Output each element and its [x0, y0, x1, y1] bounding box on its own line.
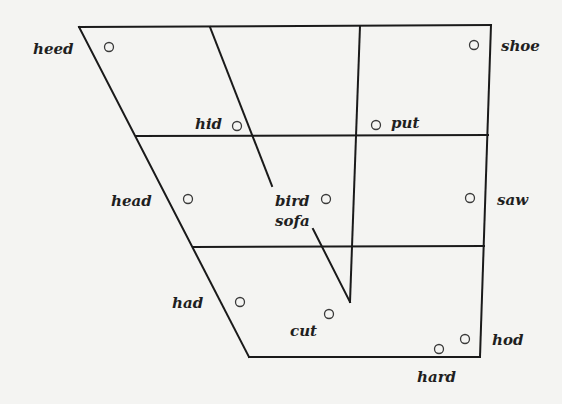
vowel-point-cut	[325, 310, 334, 319]
open-mid-line	[193, 246, 484, 247]
vowel-label-had: had	[172, 294, 204, 312]
vowel-label-hod: hod	[492, 331, 524, 349]
vowel-point-hod	[461, 335, 470, 344]
vowel-point-saw	[466, 194, 475, 203]
vowel-point-put	[372, 121, 381, 130]
vowel-label-put: put	[391, 114, 419, 132]
vowel-label-bird: bird	[275, 192, 310, 210]
vowel-label-hard: hard	[417, 368, 457, 386]
vowel-point-hard	[435, 345, 444, 354]
vowel-point-hid	[233, 122, 242, 131]
vowel-point-head	[184, 195, 193, 204]
close-mid-line	[136, 135, 488, 136]
vowel-label-cut: cut	[290, 322, 317, 340]
vowel-point-shoe	[470, 41, 479, 50]
schwa-pointer-line	[313, 229, 350, 302]
chart-grid	[79, 25, 491, 357]
vowel-label-heed: heed	[33, 40, 74, 58]
vowel-label-head: head	[111, 192, 152, 210]
vowel-chart: heed hid head had bird sofa cut put shoe…	[0, 0, 562, 404]
top-edge	[79, 25, 491, 27]
vowel-label-sofa: sofa	[275, 212, 310, 230]
vowel-point-bird	[322, 195, 331, 204]
vowel-point-had	[236, 298, 245, 307]
front-edge	[79, 27, 249, 357]
vowel-label-shoe: shoe	[501, 37, 540, 55]
back-edge	[480, 25, 491, 357]
central-back-line	[350, 26, 360, 302]
vowel-label-hid: hid	[195, 115, 223, 133]
vowel-point-heed	[105, 43, 114, 52]
vowel-labels: heed hid head had bird sofa cut put shoe…	[33, 37, 540, 386]
front-central-diagonal	[210, 27, 272, 186]
vowel-label-saw: saw	[497, 191, 529, 209]
